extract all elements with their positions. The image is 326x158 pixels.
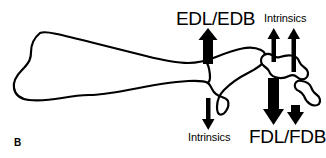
figure-panel-b: EDL/EDB Intrinsics Intrinsics FDL/FDB B [0, 0, 326, 158]
fdl-fdb-arrow-large [263, 78, 284, 125]
edl-edb-arrow [199, 28, 218, 64]
intrinsics-bottom-arrow [202, 98, 215, 130]
label-intrinsics-bottom: Intrinsics [188, 132, 230, 143]
fdl-fdb-arrow-small [287, 105, 304, 125]
label-intrinsics-top: Intrinsics [264, 13, 306, 24]
intrinsics-top-arrow-2 [288, 28, 301, 72]
panel-label: B [14, 138, 21, 148]
label-edl-edb: EDL/EDB [176, 9, 255, 28]
intrinsics-top-arrow-1 [268, 28, 281, 62]
label-fdl-fdb: FDL/FDB [249, 127, 326, 146]
